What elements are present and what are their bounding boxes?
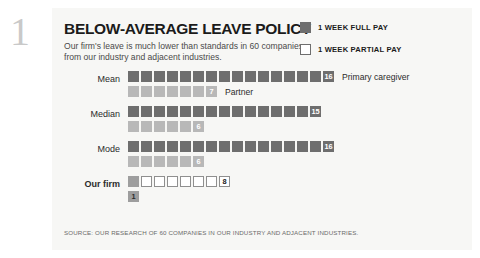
bar-square-full-pay xyxy=(128,86,139,97)
bar-square-full-pay xyxy=(284,71,295,82)
bar-square-full-pay xyxy=(232,106,243,117)
bar-square-full-pay xyxy=(193,141,204,152)
bar-square-full-pay xyxy=(180,121,191,132)
chart-group: Mode166 xyxy=(64,140,460,175)
bar-square-partial-pay xyxy=(206,176,217,187)
bar-square-full-pay xyxy=(193,86,204,97)
legend: 1 WEEK FULL PAY 1 WEEK PARTIAL PAY xyxy=(300,22,460,66)
chart-body: Mean16Primary caregiver7PartnerMedian156… xyxy=(64,70,460,213)
bar-value-label: 6 xyxy=(193,156,204,167)
bar-square-full-pay xyxy=(232,141,243,152)
legend-item-partial-pay: 1 WEEK PARTIAL PAY xyxy=(300,44,460,55)
bar-square-full-pay xyxy=(141,106,152,117)
bar-square-full-pay xyxy=(167,141,178,152)
chart-group-rows: 81 xyxy=(128,175,232,205)
bar-square-partial-pay xyxy=(141,176,152,187)
bar-value-label: 6 xyxy=(193,121,204,132)
chart-group: Mean16Primary caregiver7Partner xyxy=(64,70,460,105)
bar-square-full-pay xyxy=(154,106,165,117)
bar-square-full-pay xyxy=(258,71,269,82)
bar-square-full-pay xyxy=(128,121,139,132)
bar-square-full-pay xyxy=(180,141,191,152)
chart-bar-row: 16 xyxy=(128,140,336,153)
bar-square-full-pay xyxy=(180,71,191,82)
bar-square-full-pay xyxy=(141,156,152,167)
bar-square-full-pay xyxy=(154,141,165,152)
bar-square-partial-pay xyxy=(167,176,178,187)
bar-square-full-pay xyxy=(297,141,308,152)
bar-square-full-pay xyxy=(206,141,217,152)
chart-card: BELOW-AVERAGE LEAVE POLICY Our firm's le… xyxy=(52,8,472,250)
bar-square-full-pay xyxy=(219,106,230,117)
bar-square-partial-pay xyxy=(154,176,165,187)
bar-square-full-pay xyxy=(128,156,139,167)
bar-square-full-pay xyxy=(245,106,256,117)
bar-square-full-pay xyxy=(154,156,165,167)
bar-square-full-pay xyxy=(297,106,308,117)
chart-bar-row: 1 xyxy=(128,190,232,203)
bar-square-full-pay xyxy=(284,141,295,152)
filled-square-icon xyxy=(300,22,311,33)
bar-square-full-pay xyxy=(180,156,191,167)
legend-item-full-pay: 1 WEEK FULL PAY xyxy=(300,22,460,33)
bar-square-full-pay xyxy=(193,106,204,117)
bar-square-full-pay xyxy=(206,71,217,82)
bar-square-full-pay xyxy=(167,86,178,97)
chart-bar-row: 15 xyxy=(128,105,323,118)
bar-value-label: 15 xyxy=(310,106,321,117)
bar-square-full-pay xyxy=(128,71,139,82)
chart-group-label: Median xyxy=(64,108,120,120)
chart-group-label: Mean xyxy=(64,73,120,85)
chart-bar-row: 7Partner xyxy=(128,85,409,98)
bar-square-full-pay xyxy=(141,141,152,152)
bar-square-partial-pay xyxy=(193,176,204,187)
chart-group-rows: 166 xyxy=(128,140,336,170)
bar-value-label: 1 xyxy=(128,191,139,202)
bar-square-full-pay xyxy=(271,106,282,117)
bar-square-full-pay xyxy=(245,71,256,82)
chart-bar-row: 16Primary caregiver xyxy=(128,70,409,83)
bar-value-label: 16 xyxy=(323,141,334,152)
bar-square-full-pay xyxy=(297,71,308,82)
page-subtitle: Our firm's leave is much lower than stan… xyxy=(64,41,304,63)
chart-bar-row: 8 xyxy=(128,175,232,188)
bar-square-full-pay xyxy=(284,106,295,117)
series-side-label: Primary caregiver xyxy=(342,72,409,82)
bar-square-full-pay xyxy=(141,71,152,82)
bar-square-full-pay xyxy=(180,106,191,117)
bar-square-full-pay xyxy=(167,71,178,82)
infographic-page: 1 BELOW-AVERAGE LEAVE POLICY Our firm's … xyxy=(0,0,480,258)
bar-square-full-pay xyxy=(180,86,191,97)
chart-group: Median156 xyxy=(64,105,460,140)
bar-value-label: 8 xyxy=(219,176,230,187)
bar-square-full-pay xyxy=(154,86,165,97)
chart-group-rows: 156 xyxy=(128,105,323,135)
bar-square-full-pay xyxy=(271,141,282,152)
source-note: SOURCE: OUR RESEARCH OF 60 COMPANIES IN … xyxy=(64,229,358,236)
chart-bar-row: 6 xyxy=(128,120,323,133)
bar-square-full-pay xyxy=(128,141,139,152)
bar-square-full-pay xyxy=(271,71,282,82)
bar-square-full-pay xyxy=(167,156,178,167)
bar-square-full-pay xyxy=(219,71,230,82)
bar-square-full-pay xyxy=(258,141,269,152)
bar-square-full-pay xyxy=(219,141,230,152)
chart-group-label: Our firm xyxy=(64,178,120,190)
bar-square-full-pay xyxy=(310,71,321,82)
bar-square-full-pay xyxy=(167,121,178,132)
chart-group-label: Mode xyxy=(64,143,120,155)
bar-square-full-pay xyxy=(245,141,256,152)
series-side-label: Partner xyxy=(225,87,253,97)
outlined-square-icon xyxy=(300,44,311,55)
bar-square-full-pay xyxy=(167,106,178,117)
bar-square-full-pay xyxy=(128,176,139,187)
legend-label-full-pay: 1 WEEK FULL PAY xyxy=(318,23,388,32)
chart-group: Our firm81 xyxy=(64,175,460,213)
bar-square-full-pay xyxy=(310,141,321,152)
bar-square-full-pay xyxy=(232,71,243,82)
bar-value-label: 7 xyxy=(206,86,217,97)
card-header: BELOW-AVERAGE LEAVE POLICY Our firm's le… xyxy=(64,20,460,64)
bar-square-full-pay xyxy=(193,71,204,82)
bar-square-full-pay xyxy=(154,121,165,132)
page-numeral: 1 xyxy=(10,12,30,52)
